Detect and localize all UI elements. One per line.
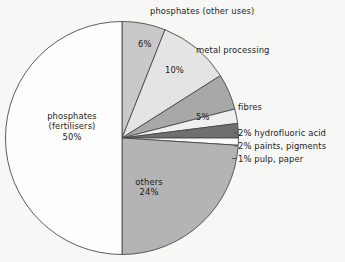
slice-value-others: 24% — [112, 187, 186, 197]
slice-label-fibres: fibres — [238, 102, 262, 112]
slice-value-phosphates-other-uses: 6% — [138, 39, 152, 49]
slice-value-fibres: 5% — [196, 112, 210, 122]
slice-value-phosphates-fertilisers: 50% — [24, 132, 120, 142]
slice-label-phosphates-fertilisers-line1: phosphates — [24, 111, 120, 121]
pie-chart: phosphates (other uses) metal processing… — [0, 0, 345, 262]
slice-label-others: others 24% — [112, 177, 186, 198]
slice-label-phosphates-other-uses: phosphates (other uses) — [150, 6, 254, 16]
slice-label-pulp-paper: 1% pulp, paper — [238, 154, 303, 164]
slice-label-phosphates-fertilisers: phosphates (fertilisers) 50% — [24, 111, 120, 142]
slice-label-hydrofluoric-acid: 2% hydrofluoric acid — [238, 128, 326, 138]
slice-label-others-text: others — [112, 177, 186, 187]
slice-label-phosphates-fertilisers-line2: (fertilisers) — [24, 121, 120, 131]
slice-value-metal-processing: 10% — [165, 65, 184, 75]
slice-label-metal-processing: metal processing — [196, 45, 269, 55]
slice-label-paints-pigments: 2% paints, pigments — [238, 141, 326, 151]
